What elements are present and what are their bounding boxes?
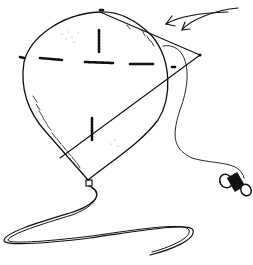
ribbon-string-edge — [8, 188, 189, 252]
speckles — [61, 31, 118, 146]
balloon-seams — [20, 10, 175, 140]
envelope-hatching — [33, 25, 154, 168]
balloon-neck — [86, 180, 92, 186]
balloon-tether-line — [60, 12, 200, 158]
curved-arrows — [166, 8, 238, 30]
cord-to-spool — [163, 46, 244, 178]
spool — [217, 172, 253, 198]
tether-anchor — [198, 53, 201, 56]
balloon-envelope — [23, 12, 168, 180]
ribbon-string — [4, 186, 193, 255]
figure-canvas — [0, 0, 253, 265]
balloon-drawing — [0, 0, 253, 265]
